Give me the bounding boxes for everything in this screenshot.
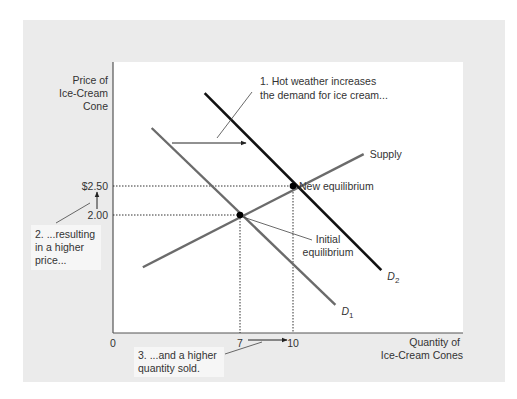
equilibrium-point bbox=[290, 183, 297, 190]
x-tick-label: 10 bbox=[287, 337, 299, 349]
x-axis-label-line2: Ice-Cream Cones bbox=[381, 349, 463, 361]
equilibrium-point bbox=[237, 212, 244, 219]
series-label-d1: D1 bbox=[341, 305, 354, 320]
y-axis-label-line1: Price of bbox=[72, 74, 108, 86]
note3-line1: 3. ...and a higher bbox=[138, 349, 217, 361]
y-tick-label: $2.50 bbox=[82, 180, 108, 192]
series-label-subscript: 2 bbox=[395, 276, 400, 285]
x-axis-label-line1: Quantity of bbox=[409, 336, 460, 348]
note1-line1: 1. Hot weather increases bbox=[260, 75, 376, 87]
x-tick-label: 0 bbox=[110, 337, 116, 349]
series-label-supply: Supply bbox=[370, 148, 403, 160]
supply-demand-chart: Price of Ice-Cream Cone Quantity of Ice-… bbox=[0, 0, 517, 399]
series-label-d2: D2 bbox=[387, 270, 400, 285]
note1-line2: the demand for ice cream... bbox=[260, 89, 388, 101]
note1-leader-line bbox=[217, 92, 252, 138]
note3-line2: quantity sold. bbox=[138, 362, 200, 374]
x-tick-label: 7 bbox=[237, 337, 243, 349]
note2-line3: price... bbox=[35, 254, 67, 266]
note3-leader-line bbox=[225, 342, 262, 354]
y-tick-label: 2.00 bbox=[88, 209, 109, 221]
note2-line2: in a higher bbox=[35, 241, 85, 253]
equilibrium-leader-line bbox=[243, 217, 312, 240]
y-axis-label-line2: Ice-Cream bbox=[59, 87, 108, 99]
note2-leader-line bbox=[56, 203, 90, 223]
note2-line1: 2. ...resulting bbox=[35, 228, 95, 240]
equilibrium-label: New equilibrium bbox=[299, 180, 374, 192]
series-label-subscript: 1 bbox=[349, 311, 354, 320]
equilibrium-label: Initial bbox=[316, 233, 341, 245]
equilibrium-label: equilibrium bbox=[303, 246, 354, 258]
y-axis-label-line3: Cone bbox=[83, 100, 108, 112]
series-line-d1 bbox=[152, 128, 336, 305]
